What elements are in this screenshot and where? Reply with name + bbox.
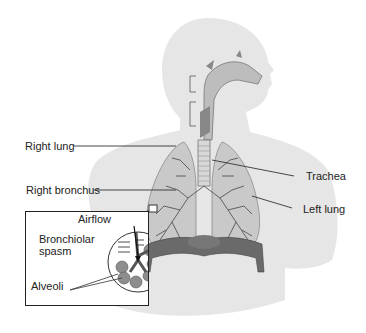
label-bronchiolar-spasm-2: spasm	[39, 245, 71, 257]
label-bronchiolar-spasm-1: Bronchiolar	[39, 233, 95, 245]
label-airflow: Airflow	[78, 213, 111, 225]
trachea	[198, 140, 210, 186]
label-left-lung: Left lung	[303, 203, 345, 215]
label-trachea: Trachea	[306, 170, 346, 182]
label-right-bronchus: Right bronchus	[26, 184, 100, 196]
label-alveoli: Alveoli	[31, 280, 63, 292]
bronchiole-inset: Airflow Bronchiolar spasm Alveoli	[25, 211, 149, 306]
inset-marker	[149, 205, 157, 212]
label-right-lung: Right lung	[25, 140, 75, 152]
